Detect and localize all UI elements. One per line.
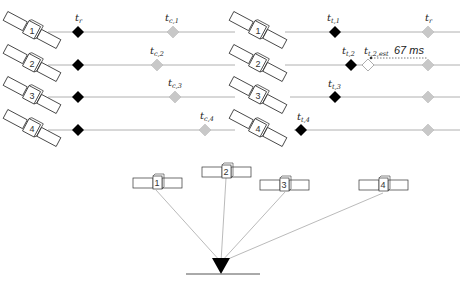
left-row-3: 3 tc,3 <box>2 73 235 115</box>
satellite-number: 1 <box>255 26 260 36</box>
tt-label: tt,3 <box>328 78 341 91</box>
gnss-timing-diagram: 1 tr tc,1 2 tc,2 3 tc,3 4 <box>0 0 471 284</box>
right-row-2: 2 tt,2 tt,2,est 67 ms <box>228 41 460 83</box>
signal-line-2 <box>221 178 226 262</box>
tc-label: tc,3 <box>168 77 182 90</box>
right-row-3: 3 tt,3 <box>228 73 460 115</box>
satellite-number: 4 <box>29 124 34 134</box>
receive-diamond <box>167 26 179 38</box>
receive-diamond <box>422 26 434 38</box>
left-row-4: 4 tc,4 <box>2 106 235 148</box>
satellite-number: 4 <box>255 124 260 134</box>
right-row-1: 1 tt,1 tr <box>228 8 460 50</box>
satellite-number: 3 <box>29 91 34 101</box>
right-panel: 1 tt,1 tr 2 tt,2 tt,2,est 67 ms 3 <box>228 8 460 148</box>
transmit-diamond <box>72 124 84 136</box>
tc-label: tc,4 <box>200 110 214 123</box>
tt-label: tt,1 <box>327 12 340 25</box>
satellite-number: 2 <box>29 59 34 69</box>
tr-label: tr <box>425 12 433 25</box>
tt-est-label: tt,2,est <box>364 45 389 58</box>
left-panel: 1 tr tc,1 2 tc,2 3 tc,3 4 <box>2 8 235 148</box>
receive-diamond <box>169 91 181 103</box>
tr-label: tr <box>75 12 83 25</box>
transmit-diamond <box>295 124 307 136</box>
receive-diamond <box>199 124 211 136</box>
satellite-number: 2 <box>223 167 228 177</box>
transmit-diamond <box>329 26 341 38</box>
satellite-number: 1 <box>154 178 159 188</box>
signal-line-4 <box>221 193 383 262</box>
signal-line-1 <box>156 190 221 262</box>
tc-label: tc,1 <box>165 12 179 25</box>
right-row-4: 4 tt,4 <box>228 106 460 148</box>
satellite-number: 4 <box>380 180 385 190</box>
left-row-2: 2 tc,2 <box>2 41 235 83</box>
transmit-diamond <box>72 26 84 38</box>
receive-diamond <box>422 59 434 71</box>
signal-line-3 <box>221 192 285 262</box>
satellite-number: 2 <box>255 59 260 69</box>
receive-diamond <box>422 124 434 136</box>
receive-diamond <box>151 59 163 71</box>
satellite-number: 3 <box>255 91 260 101</box>
transmit-diamond <box>329 91 341 103</box>
receiver-icon <box>212 258 230 274</box>
tt-label: tt,2 <box>342 45 355 58</box>
transmit-diamond <box>345 59 357 71</box>
receive-diamond <box>422 91 434 103</box>
tt-label: tt,4 <box>297 111 310 124</box>
satellite-number: 1 <box>29 26 34 36</box>
transmit-diamond <box>72 91 84 103</box>
bottom-panel: 1 2 3 4 <box>133 163 408 274</box>
tc-label: tc,2 <box>150 45 164 58</box>
transmit-diamond <box>72 59 84 71</box>
satellite-number: 3 <box>281 180 286 190</box>
estimated-transmit-diamond <box>362 59 374 71</box>
offset-label: 67 ms <box>394 44 424 56</box>
left-row-1: 1 tr tc,1 <box>2 8 235 50</box>
